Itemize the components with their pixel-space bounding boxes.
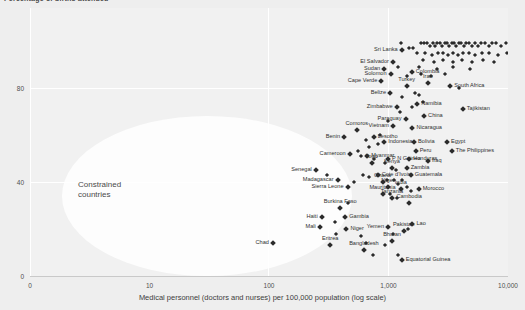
data-point <box>413 149 419 155</box>
point-label: Zambia <box>411 165 430 171</box>
data-point <box>451 51 455 55</box>
data-point <box>371 135 377 141</box>
point-label: The Philippines <box>456 149 494 155</box>
data-point <box>401 229 407 235</box>
point-label: Chad <box>256 240 269 246</box>
point-label: South Africa <box>454 83 484 89</box>
point-label: Togo <box>366 154 378 160</box>
data-point <box>347 151 353 157</box>
data-point <box>505 51 508 55</box>
data-point <box>371 253 375 257</box>
data-point <box>378 78 384 84</box>
data-point <box>436 51 440 55</box>
point-label: Egypt <box>451 139 465 145</box>
data-point <box>410 105 414 109</box>
point-label: Sierra Leone <box>311 184 343 190</box>
data-point <box>399 48 405 54</box>
data-point <box>411 46 415 50</box>
data-point <box>367 145 371 149</box>
data-point <box>441 51 445 55</box>
data-point <box>398 109 402 113</box>
point-label: Kenya <box>384 159 400 165</box>
point-label: Belize <box>371 90 386 96</box>
x-tick-label: 1,000 <box>380 282 396 289</box>
point-label: Gambia <box>349 214 369 220</box>
chart-title: Percentage of births attended <box>4 0 109 2</box>
point-label: Benin <box>326 135 340 141</box>
point-label: Turkey <box>398 77 415 83</box>
data-point <box>430 53 434 57</box>
y-tick-label: 40 <box>17 179 24 186</box>
point-label: Cameroon <box>320 151 346 157</box>
data-point <box>443 72 447 76</box>
data-point <box>410 125 416 131</box>
data-point <box>481 58 485 62</box>
point-label: Bolivia <box>418 139 434 145</box>
point-label: Cape Verde <box>348 78 378 84</box>
data-point <box>390 123 396 129</box>
data-point <box>385 224 391 230</box>
data-point <box>396 253 400 257</box>
point-label: Senegal <box>291 167 312 173</box>
data-point <box>423 51 427 55</box>
point-label: Niger <box>350 226 363 232</box>
point-label: Namibia <box>421 102 442 108</box>
point-label: Paraguay <box>378 116 402 122</box>
point-label: Burkina Faso <box>324 199 357 205</box>
point-label: Bhutan <box>383 232 401 238</box>
data-point <box>403 116 409 122</box>
data-point <box>427 44 431 48</box>
point-label: Madagascar <box>303 177 334 183</box>
data-point <box>390 59 396 65</box>
data-point <box>359 154 363 158</box>
gridline-horizontal <box>30 88 508 89</box>
data-point <box>396 65 400 69</box>
data-point <box>389 196 395 202</box>
data-point <box>367 175 371 179</box>
data-point <box>459 58 463 62</box>
data-point <box>404 165 410 171</box>
point-label: Morocco <box>423 186 444 192</box>
data-point <box>416 186 422 192</box>
point-label: Eritrea <box>322 237 338 243</box>
x-tick-label: 10 <box>146 282 153 289</box>
point-label: Lao <box>416 222 425 228</box>
point-label: El Salvador <box>360 59 389 65</box>
point-label: Peru <box>420 149 432 155</box>
point-label: Indonesia <box>388 139 412 145</box>
data-point <box>406 200 412 206</box>
y-tick-label: 80 <box>17 85 24 92</box>
x-axis-line <box>30 276 508 277</box>
data-point <box>364 138 368 142</box>
data-point <box>376 142 380 146</box>
data-point <box>467 51 471 55</box>
y-tick-label: 0 <box>20 273 24 280</box>
data-point <box>415 51 419 55</box>
data-point <box>444 139 450 145</box>
x-tick-label: 0 <box>28 282 32 289</box>
data-point <box>473 53 477 57</box>
data-point <box>399 41 403 45</box>
data-point <box>387 90 393 96</box>
data-point <box>389 238 395 244</box>
point-label: Mali <box>305 224 315 230</box>
data-point <box>446 53 450 57</box>
point-label: Vietnam <box>369 123 389 129</box>
point-label: Niger <box>381 178 394 184</box>
point-label: Haiti <box>306 214 317 220</box>
data-point <box>460 106 466 112</box>
point-label: Solomon <box>364 71 386 77</box>
data-point <box>344 226 350 232</box>
point-label: Nicaragua <box>416 125 442 131</box>
point-label: India <box>395 180 407 186</box>
data-point <box>369 160 375 166</box>
data-point <box>461 51 465 55</box>
data-point <box>394 104 400 110</box>
data-point <box>432 60 436 64</box>
point-label: Comoros <box>345 122 368 128</box>
data-point <box>441 58 445 62</box>
data-point <box>417 93 421 97</box>
data-point <box>421 113 427 119</box>
data-point <box>421 58 425 62</box>
data-point <box>455 53 459 57</box>
